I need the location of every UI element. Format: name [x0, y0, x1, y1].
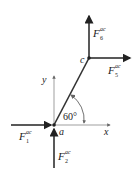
svg-text:F: F [107, 64, 115, 76]
svg-text:2: 2 [65, 158, 68, 164]
force-f1-label: F ac 1 [18, 129, 32, 144]
svg-text:ac: ac [115, 63, 121, 69]
svg-text:F: F [18, 130, 26, 142]
force-f6-label: F ac 6 [92, 26, 106, 41]
y-axis-label: y [41, 74, 47, 85]
svg-text:F: F [57, 150, 65, 162]
svg-text:F: F [92, 27, 100, 39]
free-body-diagram: c a y x 60° F ac 6 F ac 5 F ac 1 F ac 2 [0, 0, 138, 183]
force-f2-label: F ac 2 [57, 149, 71, 164]
svg-text:ac: ac [100, 26, 106, 32]
point-a-label: a [59, 126, 64, 137]
force-f5-label: F ac 5 [107, 63, 121, 78]
x-axis-label: x [103, 126, 109, 137]
svg-text:ac: ac [65, 149, 71, 155]
svg-text:6: 6 [100, 35, 103, 41]
joint-a [52, 123, 56, 127]
svg-text:ac: ac [26, 129, 32, 135]
angle-label: 60° [63, 111, 77, 122]
point-c-label: c [80, 54, 85, 65]
svg-text:5: 5 [115, 72, 118, 78]
svg-text:1: 1 [26, 138, 29, 144]
